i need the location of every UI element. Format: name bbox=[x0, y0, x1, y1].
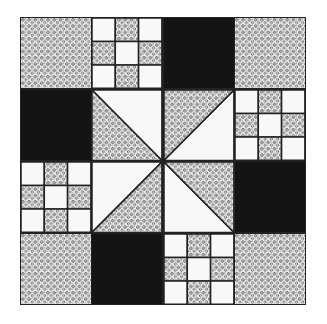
print-square bbox=[235, 234, 305, 304]
dark-square bbox=[235, 162, 305, 232]
dark-square bbox=[21, 90, 91, 160]
print-square bbox=[235, 18, 305, 88]
nine-patch bbox=[92, 18, 162, 88]
quilt-block bbox=[20, 17, 306, 305]
print-square bbox=[21, 18, 91, 88]
half-square-triangle bbox=[164, 90, 234, 160]
half-square-triangle bbox=[92, 90, 162, 160]
nine-patch bbox=[235, 90, 305, 160]
nine-patch bbox=[164, 234, 234, 304]
half-square-triangle bbox=[164, 162, 234, 232]
half-square-triangle bbox=[92, 162, 162, 232]
dark-square bbox=[164, 18, 234, 88]
nine-patch bbox=[21, 162, 91, 232]
print-square bbox=[21, 234, 91, 304]
dark-square bbox=[92, 234, 162, 304]
